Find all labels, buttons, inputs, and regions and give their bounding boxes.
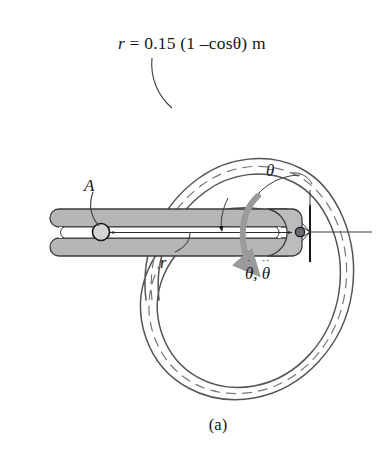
angular-rates-label: ·θ, ··θ <box>245 264 270 284</box>
equation-coefficient: 0.15 <box>144 33 175 53</box>
equation-label: r = 0.15 (1 –cosθ) m <box>118 33 266 54</box>
equation-leader-line <box>152 58 172 108</box>
equation-expression: (1 –cosθ) <box>180 33 247 53</box>
equation-equals: = <box>130 33 140 53</box>
equation-units: m <box>252 33 266 53</box>
equation-variable: r <box>118 33 125 53</box>
angle-label-theta: θ <box>266 161 274 181</box>
theta-dot-mark: · <box>245 256 253 267</box>
figure-container: r = 0.15 (1 –cosθ) m A r θ ·θ, ··θ (a) <box>0 0 388 475</box>
mechanism-diagram <box>0 0 388 475</box>
pivot-pin <box>295 227 304 236</box>
theta-ddot-mark: ·· <box>262 256 270 267</box>
arm-lower-bar <box>50 238 295 256</box>
radial-label-r: r <box>160 253 166 273</box>
theta-angle-arc <box>247 173 312 212</box>
rates-comma: , <box>253 264 257 283</box>
theta-ddot-group: ··θ <box>262 264 270 284</box>
figure-caption: (a) <box>180 415 256 435</box>
peg-A <box>93 224 110 241</box>
peg-label-A: A <box>84 176 94 196</box>
theta-dot-group: ·θ <box>245 264 253 284</box>
arm-upper-bar <box>50 209 295 227</box>
peg-A-circle <box>93 224 110 241</box>
